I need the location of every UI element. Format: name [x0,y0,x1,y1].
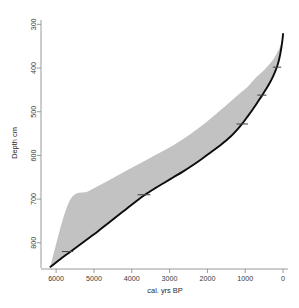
y-tick-label: 600 [29,149,38,161]
y-axis-title: Depth cm [10,127,19,159]
chart-background [0,0,299,308]
x-tick-label: 0 [281,274,285,283]
age-depth-plot: 300400500600700800 600050004000300020001… [0,0,299,308]
y-tick-label: 500 [29,106,38,118]
x-tick-label: 5000 [86,274,102,283]
y-tick-label: 300 [29,18,38,30]
x-axis-title: cal. yrs BP [147,286,182,295]
y-tick-label: 700 [29,193,38,205]
x-tick-label: 4000 [124,274,140,283]
y-tick-label: 800 [29,237,38,249]
x-tick-label: 2000 [199,274,215,283]
chart-canvas: 300400500600700800 600050004000300020001… [0,0,299,308]
x-tick-label: 1000 [237,274,253,283]
x-tick-label: 3000 [162,274,178,283]
x-tick-label: 6000 [48,274,64,283]
y-tick-label: 400 [29,62,38,74]
